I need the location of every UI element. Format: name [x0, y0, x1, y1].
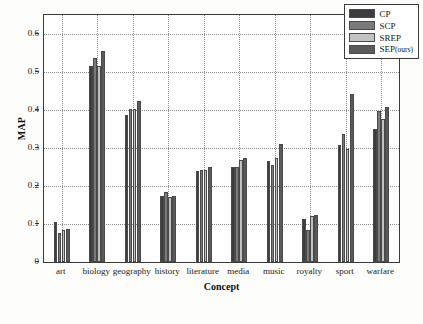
x-tick-label: literature	[187, 266, 219, 276]
legend-swatch-scp	[349, 21, 375, 30]
bar-history-sepours	[172, 196, 176, 263]
bar-sport-sepours	[350, 94, 354, 262]
legend-swatch-cp	[349, 9, 375, 18]
legend-item-cp: CP	[349, 8, 413, 19]
y-tick-mark	[35, 261, 39, 262]
bar-art-sepours	[66, 229, 70, 262]
legend-swatch-sepours	[349, 45, 375, 54]
legend-item-scp: SCP	[349, 20, 413, 31]
y-tick-mark	[35, 109, 39, 110]
legend-label: SEP(ours)	[380, 44, 413, 55]
bar-music-sepours	[279, 144, 283, 262]
y-tick-mark	[35, 71, 39, 72]
legend-item-sepours: SEP(ours)	[349, 44, 413, 55]
x-tick-label: art	[56, 266, 66, 276]
bar-royalty-sepours	[314, 215, 318, 263]
legend-item-srep: SREP	[349, 32, 413, 43]
legend-swatch-srep	[349, 33, 375, 42]
y-tick-mark	[35, 223, 39, 224]
y-tick-mark	[35, 33, 39, 34]
legend-label: SCP	[380, 21, 396, 31]
x-tick-label: royalty	[297, 266, 323, 276]
x-tick-label: geography	[113, 266, 151, 276]
bar-chart-figure: MAP 00.10.20.30.40.50.6 artbiologygeogra…	[0, 0, 423, 324]
x-tick-label: biology	[82, 266, 110, 276]
legend-label: CP	[380, 9, 391, 19]
bar-geography-sepours	[137, 101, 141, 263]
bar-media-sepours	[243, 158, 247, 262]
y-tick-mark	[35, 185, 39, 186]
chart-legend: CPSCPSREPSEP(ours)	[344, 4, 419, 59]
bar-warfare-sepours	[385, 107, 389, 262]
x-axis-title: Concept	[43, 281, 400, 292]
x-tick-label: music	[263, 266, 285, 276]
x-tick-label: history	[155, 266, 180, 276]
y-tick-mark	[35, 147, 39, 148]
legend-label: SREP	[380, 33, 402, 43]
x-tick-label: warfare	[367, 266, 394, 276]
x-tick-label: sport	[336, 266, 354, 276]
x-tick-label: media	[227, 266, 249, 276]
x-gridline	[62, 15, 63, 262]
bar-literature-sepours	[208, 167, 212, 262]
bar-biology-sepours	[101, 51, 105, 262]
y-axis-ticks: 00.10.20.30.40.50.6	[0, 14, 39, 263]
x-axis-ticks: artbiologygeographyhistoryliteraturemedi…	[43, 264, 400, 280]
